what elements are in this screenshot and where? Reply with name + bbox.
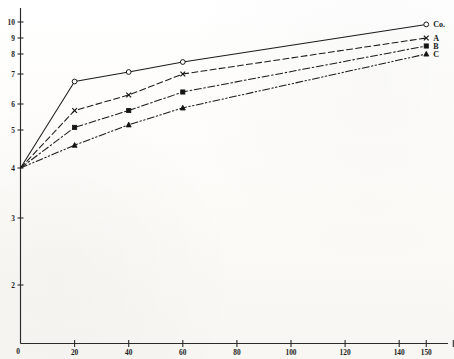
series-line-C xyxy=(21,54,427,168)
marker-C-150 xyxy=(424,51,429,56)
marker-B-20 xyxy=(73,125,77,129)
marker-Co.-150 xyxy=(424,22,429,27)
marker-Co.-60 xyxy=(180,60,185,65)
marker-Co.-20 xyxy=(72,79,77,84)
x-tick-label: 120 xyxy=(340,348,351,357)
x-tick-label: 80 xyxy=(233,348,241,357)
series-line-A xyxy=(21,38,427,168)
series-end-labels: Co.ABC xyxy=(433,20,445,59)
y-axis-ticks: 23456789100 xyxy=(8,18,24,356)
y-tick-label: 9 xyxy=(11,34,15,43)
y-tick-label: 4 xyxy=(11,164,15,173)
x-tick-label: 40 xyxy=(125,348,133,357)
y-tick-label: 3 xyxy=(11,214,15,223)
series-line-Co. xyxy=(21,24,427,168)
axes-group xyxy=(21,8,449,344)
marker-Co.-40 xyxy=(126,70,131,75)
y-tick-label: 10 xyxy=(8,18,16,27)
marker-A-20 xyxy=(72,108,77,113)
y-tick-label: 8 xyxy=(11,50,15,59)
x-tick-label: 150 xyxy=(421,348,432,357)
x-tick-label: 20 xyxy=(71,348,79,357)
marker-B-60 xyxy=(181,90,185,94)
marker-C-40 xyxy=(126,122,131,127)
marker-B-150 xyxy=(424,44,428,48)
y-tick-label: 5 xyxy=(11,126,15,135)
y-origin-label: 0 xyxy=(16,347,20,356)
line-chart-plot: 23456789100 20406080100120140150 Co.ABC xyxy=(0,0,454,359)
data-markers-group xyxy=(72,22,429,147)
x-axis-ticks: 20406080100120140150 xyxy=(71,340,453,357)
marker-B-40 xyxy=(127,108,131,112)
y-tick-label: 6 xyxy=(11,100,15,109)
y-tick-label: 2 xyxy=(11,281,15,290)
chart-figure: 23456789100 20406080100120140150 Co.ABC xyxy=(0,0,454,359)
x-tick-label: 100 xyxy=(285,348,296,357)
data-series-group xyxy=(21,24,427,168)
x-tick-label: 60 xyxy=(179,348,187,357)
x-tick-label: 140 xyxy=(394,348,405,357)
series-end-label-Co.: Co. xyxy=(433,20,445,29)
series-end-label-C: C xyxy=(433,50,439,59)
series-line-B xyxy=(21,46,427,168)
y-tick-label: 7 xyxy=(11,70,15,79)
